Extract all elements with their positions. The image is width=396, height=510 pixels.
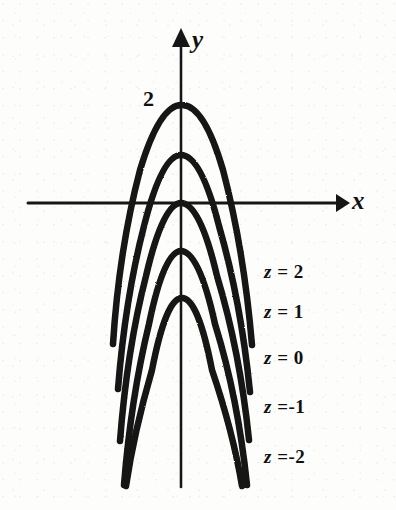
- y-axis-arrowhead: [172, 28, 190, 47]
- curve-label-variable: z: [264, 446, 272, 467]
- curve-label-value: -2: [288, 446, 305, 467]
- curve-label-variable: z: [264, 261, 272, 282]
- curve-label-z-1: z = 1: [264, 302, 304, 321]
- curve-label-value: 0: [294, 347, 304, 368]
- y-axis-label: y: [192, 27, 203, 52]
- curve-label-equals: =: [272, 301, 294, 322]
- y-axis-tick-label-2: 2: [143, 88, 154, 110]
- curve-label-equals: =: [272, 261, 294, 282]
- curve-label-z-minus-2: z =-2: [264, 447, 305, 466]
- curve-label-z-0: z = 0: [264, 348, 304, 367]
- curve-label-value: 2: [294, 261, 304, 282]
- figure-canvas: [0, 0, 396, 510]
- curve-z-minus-2: [126, 298, 242, 486]
- level-curves-group: [113, 105, 252, 486]
- curve-label-z-2: z = 2: [264, 262, 304, 281]
- curve-label-z-minus-1: z =-1: [264, 397, 305, 416]
- curve-label-variable: z: [264, 396, 272, 417]
- curve-z-2: [113, 105, 252, 345]
- x-axis-label: x: [352, 188, 365, 213]
- curve-label-equals: =: [272, 446, 289, 467]
- curve-label-variable: z: [264, 301, 272, 322]
- x-axis-arrowhead: [336, 194, 350, 212]
- curve-label-value: 1: [294, 301, 304, 322]
- curve-label-value: -1: [288, 396, 305, 417]
- curve-label-equals: =: [272, 347, 294, 368]
- curve-label-variable: z: [264, 347, 272, 368]
- curve-label-equals: =: [272, 396, 289, 417]
- level-curves-figure: y x 2 z = 2 z = 1 z = 0 z =-1 z =-2: [0, 0, 396, 510]
